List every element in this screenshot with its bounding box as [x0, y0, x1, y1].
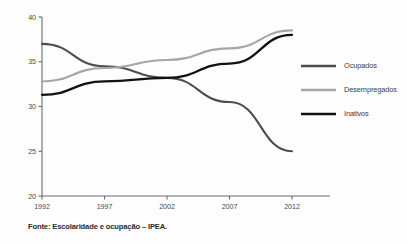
legend-label-inativos: Inativos — [344, 109, 369, 118]
y-axis-tick-label: 40 — [28, 13, 36, 22]
legend-label-ocupados: Ocupados — [344, 61, 377, 70]
y-axis-tick-label: 35 — [28, 57, 36, 66]
x-axis-tick-label: 1997 — [97, 202, 113, 211]
x-axis-tick-label: 2012 — [284, 202, 300, 211]
x-axis-tick-label: 2007 — [222, 202, 238, 211]
y-axis-tick-label: 20 — [28, 192, 36, 201]
figure-source-caption: Fonte: Escolaridade e ocupação – IPEA. — [28, 222, 167, 231]
legend-label-desempregados: Desempregados — [344, 85, 397, 94]
x-axis-tick-label: 1992 — [34, 202, 50, 211]
y-axis-tick-label: 25 — [28, 147, 36, 156]
line-chart: 202530354019921997200220072012OcupadosDe… — [0, 0, 407, 244]
x-axis-tick-label: 2002 — [159, 202, 175, 211]
chart-figure: 202530354019921997200220072012OcupadosDe… — [0, 0, 407, 244]
y-axis-tick-label: 30 — [28, 102, 36, 111]
